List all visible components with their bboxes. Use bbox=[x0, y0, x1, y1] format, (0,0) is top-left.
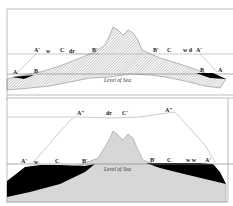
label-bottom-left-B-prime: B' bbox=[82, 158, 88, 164]
label-bottom-left-A-prime: A' bbox=[21, 158, 27, 164]
glacial-cross-section-diagram: A B A' w C dr B' B' C w d A' B A Level o… bbox=[0, 0, 233, 206]
label-top-left-B-prime: B' bbox=[92, 47, 98, 53]
label-bottom-upper-A-right: A" bbox=[165, 107, 173, 113]
label-top-left-B: B bbox=[34, 68, 38, 74]
label-top-left-w: w bbox=[46, 48, 51, 54]
label-bottom-upper-C: C' bbox=[122, 110, 128, 116]
label-top-right-B-prime: B' bbox=[153, 47, 159, 53]
label-top-right-B: B bbox=[200, 67, 204, 73]
bottom-sea-level-label: Level of Sea bbox=[103, 166, 131, 172]
label-bottom-left-C: C bbox=[55, 158, 59, 164]
label-top-right-C: C bbox=[167, 47, 171, 53]
label-bottom-right-C: C bbox=[167, 157, 171, 163]
top-sea-level-label: Level of Sea bbox=[103, 77, 131, 83]
top-panel: A B A' w C dr B' B' C w d A' B A Level o… bbox=[7, 9, 233, 100]
label-top-right-marks: w d bbox=[183, 47, 193, 53]
label-top-left-A-prime: A' bbox=[34, 47, 40, 53]
label-bottom-upper-dr: dr bbox=[106, 110, 112, 116]
label-top-left-A: A bbox=[13, 69, 18, 75]
label-bottom-left-w: w bbox=[34, 159, 39, 165]
label-bottom-upper-A-left: A" bbox=[77, 110, 85, 116]
bottom-panel: A" dr C' A" A' w C B' B' C w w A' Level … bbox=[7, 98, 233, 203]
label-top-right-A: A bbox=[218, 67, 223, 73]
label-bottom-right-marks: w w bbox=[186, 157, 197, 163]
label-top-left-C: C bbox=[60, 47, 64, 53]
label-top-right-A-prime: A' bbox=[196, 47, 202, 53]
label-bottom-right-B-prime: B' bbox=[150, 157, 156, 163]
label-bottom-right-A-prime: A' bbox=[205, 157, 211, 163]
label-top-left-dr: dr bbox=[69, 48, 75, 54]
